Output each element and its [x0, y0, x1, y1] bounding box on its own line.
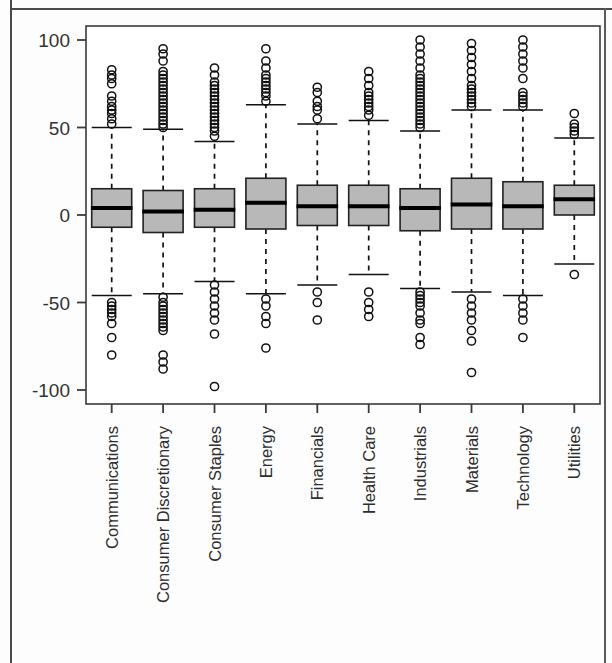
y-axis-tick-label: -50	[43, 293, 70, 314]
x-axis-category-label: Financials	[308, 426, 326, 500]
y-axis-tick-label: -100	[32, 380, 70, 401]
x-axis-category-label: Consumer Staples	[206, 426, 224, 562]
x-axis-category-label: Health Care	[360, 426, 378, 514]
x-axis-category-label: Utilities	[565, 426, 583, 479]
x-axis-category-label: Materials	[463, 426, 481, 493]
figure-canvas: 100500-50-100CommunicationsConsumer Disc…	[0, 0, 612, 663]
x-axis-category-label: Industrials	[411, 426, 429, 501]
x-axis-category-label: Technology	[514, 425, 532, 509]
x-axis-category-label: Communications	[103, 426, 121, 549]
y-axis-tick-label: 0	[59, 205, 70, 226]
boxplot-chart: 100500-50-100CommunicationsConsumer Disc…	[0, 0, 612, 663]
x-axis-category-label: Consumer Discretionary	[154, 425, 172, 603]
y-axis-tick-label: 100	[38, 30, 70, 51]
y-axis-tick-label: 50	[49, 118, 70, 139]
x-axis-category-label: Energy	[257, 425, 275, 478]
